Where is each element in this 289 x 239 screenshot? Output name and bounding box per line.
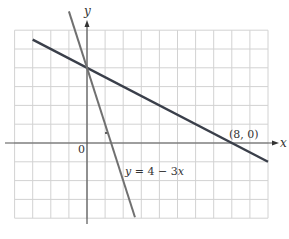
plot-line-2	[69, 11, 135, 217]
x-axis-label: x	[280, 136, 287, 150]
x-axis-arrow-icon	[272, 141, 279, 146]
graph: y x 0 (8, 0) y = 4 − 3x	[0, 0, 289, 239]
equation-body: = 4 − 3	[131, 165, 177, 178]
point-mark	[105, 132, 107, 134]
equation-x: x	[178, 165, 185, 178]
y-axis-label: y	[83, 4, 91, 18]
origin-label: 0	[78, 143, 85, 156]
grid-lines	[15, 30, 268, 218]
intercept-label: (8, 0)	[229, 128, 259, 141]
plotted-lines	[33, 11, 268, 217]
equation-label: y = 4 − 3x	[124, 165, 185, 178]
y-axis-arrow-icon	[85, 20, 90, 27]
axes	[5, 20, 279, 224]
